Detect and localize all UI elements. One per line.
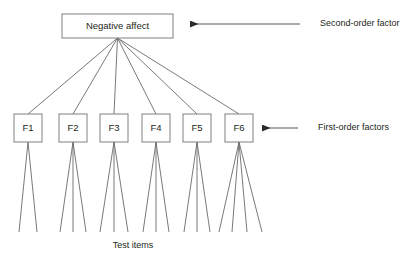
first-order-factor-node-f3[interactable]: F3 xyxy=(100,114,128,142)
link-root-to-f6 xyxy=(118,38,240,114)
link-root-to-f2 xyxy=(73,38,118,114)
first-order-factor-label-f3: F3 xyxy=(108,122,119,133)
test-items-caption: Test items xyxy=(113,240,154,250)
link-root-to-f5 xyxy=(118,38,198,114)
first-order-factor-node-f6[interactable]: F6 xyxy=(225,114,253,142)
second-order-factor-label: Negative affect xyxy=(86,20,150,31)
second-order-factor-node[interactable]: Negative affect xyxy=(62,14,173,38)
indicator-fan-f6 xyxy=(219,142,262,232)
indicator-fans xyxy=(19,142,262,232)
first-order-factor-label-f4: F4 xyxy=(150,122,161,133)
first-order-factor-node-f2[interactable]: F2 xyxy=(59,114,87,142)
first-order-factor-label-f1: F1 xyxy=(22,122,33,133)
diagram-canvas: Negative affect F1 F2 F3 F4 F5 F6 Sec xyxy=(0,0,419,266)
second-order-factor-annotation-label: Second-order factor xyxy=(320,18,400,28)
link-root-to-f3 xyxy=(114,38,118,114)
factor-model-diagram: Negative affect F1 F2 F3 F4 F5 F6 Sec xyxy=(0,0,419,266)
annotation-second-order-factor: Second-order factor xyxy=(190,18,400,28)
indicator-fan-f4 xyxy=(143,142,169,232)
second-order-to-first-order-links xyxy=(28,38,239,114)
first-order-factor-label-f6: F6 xyxy=(233,122,244,133)
first-order-factor-label-f5: F5 xyxy=(191,122,202,133)
link-root-to-f1 xyxy=(28,38,118,114)
link-root-to-f4 xyxy=(118,38,157,114)
first-order-factor-node-f4[interactable]: F4 xyxy=(142,114,170,142)
annotation-first-order-factors: First-order factors xyxy=(262,122,390,132)
indicator-fan-f5 xyxy=(184,142,210,232)
indicator-fan-f2 xyxy=(60,142,86,232)
first-order-factors-annotation-label: First-order factors xyxy=(318,122,390,132)
first-order-factor-label-f2: F2 xyxy=(67,122,78,133)
first-order-factor-node-f5[interactable]: F5 xyxy=(183,114,211,142)
indicator-fan-f1 xyxy=(19,142,37,232)
indicator-fan-f3 xyxy=(100,142,128,232)
first-order-factor-node-f1[interactable]: F1 xyxy=(14,114,42,142)
